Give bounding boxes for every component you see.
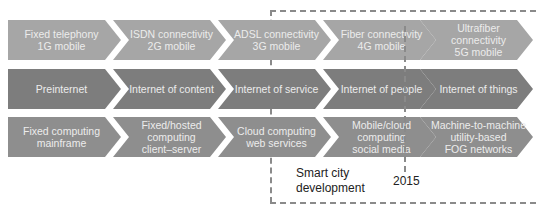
- chevron-label: Internet of content: [119, 83, 220, 95]
- chevron-connectivity-1: Fixed telephony 1G mobile: [8, 20, 121, 60]
- chevron-computing-2: Fixed/hosted computing client–server: [113, 117, 226, 157]
- smart-city-region-bottom-border: [270, 202, 536, 204]
- chevron-label: Ultrafiber connectivity 5G mobile: [420, 22, 533, 58]
- chevron-computing-1: Fixed computing mainframe: [8, 117, 121, 157]
- year-2015-label: 2015: [393, 174, 420, 189]
- smart-city-region-top-border: [270, 10, 536, 12]
- chevron-label: Internet of people: [331, 83, 429, 95]
- chevron-internet-1: Preinternet: [8, 69, 121, 109]
- chevron-label: ADSL connectivity 3G mobile: [224, 28, 325, 52]
- chevron-label: Internet of things: [429, 83, 523, 95]
- row-internet: Preinternet Internet of content Internet…: [0, 69, 536, 109]
- chevron-label: ISDN connectivity 2G mobile: [120, 28, 219, 52]
- chevron-label: Fixed/hosted computing client–server: [131, 119, 207, 155]
- chevron-label: Preinternet: [36, 83, 93, 95]
- row-computing: Fixed computing mainframe Fixed/hosted c…: [0, 117, 536, 157]
- chevron-label: Internet of service: [225, 83, 324, 95]
- year-2015-marker-line: [404, 26, 406, 172]
- chevron-internet-3: Internet of service: [218, 69, 331, 109]
- smart-city-development-label: Smart city development: [296, 166, 365, 196]
- chevron-connectivity-5: Ultrafiber connectivity 5G mobile: [420, 20, 533, 60]
- chevron-label: Fixed computing mainframe: [23, 125, 106, 149]
- chevron-internet-2: Internet of content: [113, 69, 226, 109]
- chevron-connectivity-3: ADSL connectivity 3G mobile: [218, 20, 331, 60]
- chevron-label: Cloud computing web services: [227, 125, 322, 149]
- chevron-label: Fixed telephony 1G mobile: [24, 28, 104, 52]
- chevron-internet-5: Internet of things: [420, 69, 533, 109]
- chevron-label: Fiber connectivity 4G mobile: [331, 28, 429, 52]
- chevron-computing-5: Machine-to-machine utility-based FOG net…: [420, 117, 533, 157]
- chevron-connectivity-2: ISDN connectivity 2G mobile: [113, 20, 226, 60]
- row-connectivity: Fixed telephony 1G mobile ISDN connectiv…: [0, 20, 536, 60]
- chevron-computing-3: Cloud computing web services: [218, 117, 331, 157]
- chevron-label: Machine-to-machine utility-based FOG net…: [421, 119, 532, 155]
